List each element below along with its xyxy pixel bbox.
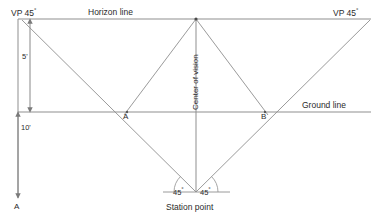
- angle-arc-right: [212, 177, 219, 193]
- dimension-label-10ft: 10': [21, 124, 31, 132]
- center-of-vision-point: [194, 17, 197, 20]
- vp-right-degree-symbol: °: [356, 7, 358, 13]
- vp-right-text: VP 45: [333, 8, 356, 18]
- vp-right-label: VP 45°: [333, 7, 358, 17]
- vp-left-degree-symbol: °: [34, 7, 36, 13]
- dimension-label-5ft: 5': [22, 53, 28, 61]
- station-point-label: Station point: [166, 203, 213, 212]
- visual-ray-cv-to-b: [196, 19, 268, 115]
- angle-right-label: 45°: [200, 186, 211, 196]
- center-of-vision-label: Center of vision: [192, 54, 200, 110]
- vp-left-text: VP 45: [11, 8, 34, 18]
- vp-left-label: VP 45°: [11, 7, 36, 17]
- point-a-ground-label: A: [123, 113, 128, 121]
- angle-left-label: 45°: [173, 186, 184, 196]
- point-b-ground-label: B: [261, 113, 266, 121]
- angle-right-degree-symbol: °: [208, 186, 210, 192]
- sight-line-left-vp-to-station: [22, 20, 196, 192]
- point-a-bottom-label: A: [14, 203, 19, 211]
- perspective-diagram: VP 45° VP 45° Horizon line Ground line 5…: [0, 0, 375, 218]
- ground-line-label: Ground line: [302, 101, 346, 110]
- visual-ray-cv-to-a: [124, 19, 196, 115]
- horizon-line-label: Horizon line: [88, 8, 133, 17]
- angle-left-degree-symbol: °: [181, 186, 183, 192]
